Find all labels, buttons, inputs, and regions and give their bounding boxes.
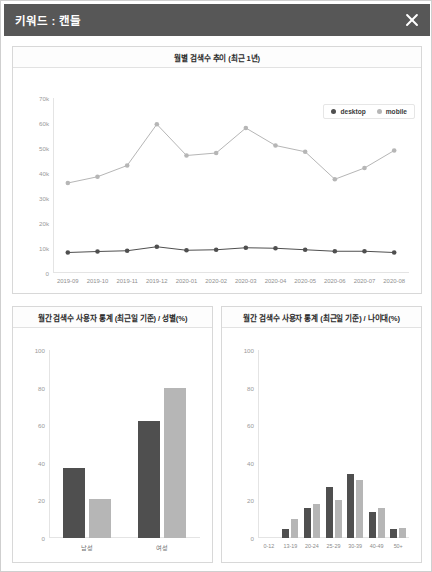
bar-desktop[interactable] <box>282 529 289 538</box>
y-axis-tick: 0 <box>42 535 45 542</box>
dialog-title: 키워드 : 캔들 <box>15 12 81 28</box>
data-point-mobile[interactable] <box>362 166 367 171</box>
age-chart-body: 0204060801000-1213-1920-2425-2930-3940-4… <box>222 328 421 563</box>
data-point-mobile[interactable] <box>95 174 100 179</box>
y-axis-tick: 10k <box>39 245 49 252</box>
data-point-mobile[interactable] <box>155 122 160 127</box>
bar-desktop[interactable] <box>304 508 311 538</box>
bar-desktop[interactable] <box>347 474 354 538</box>
y-axis-tick: 40 <box>247 459 254 466</box>
x-axis-tick: 2019-09 <box>57 278 79 284</box>
gender-chart-body: 020406080100남성여성 <box>13 328 212 563</box>
y-axis-tick: 60k <box>39 120 49 127</box>
x-axis-tick: 2020-04 <box>265 278 287 284</box>
y-axis-tick: 20 <box>38 497 45 504</box>
bar-desktop[interactable] <box>63 468 85 538</box>
data-point-desktop[interactable] <box>333 249 338 254</box>
trend-chart-body: desktop mobile 010k20k30k40k50k60k70k201… <box>13 68 421 294</box>
age-chart-title: 월간 검색수 사용자 통계 (최근일 기준) / 나이대(%) <box>243 312 400 323</box>
bar-desktop[interactable] <box>390 529 397 538</box>
bar-mobile[interactable] <box>399 528 406 538</box>
data-point-desktop[interactable] <box>66 250 71 255</box>
x-axis-tick: 2019-11 <box>117 278 138 284</box>
bar-mobile[interactable] <box>164 388 186 538</box>
line-desktop <box>68 247 394 253</box>
y-axis-tick: 100 <box>35 347 45 354</box>
dialog-titlebar: 키워드 : 캔들 <box>4 4 430 36</box>
bar-desktop[interactable] <box>369 512 376 538</box>
y-axis-tick: 0 <box>46 270 49 277</box>
age-chart-header: 월간 검색수 사용자 통계 (최근일 기준) / 나이대(%) <box>222 307 421 328</box>
data-point-mobile[interactable] <box>303 149 308 154</box>
data-point-desktop[interactable] <box>125 248 130 253</box>
trend-chart-panel: 월별 검색수 추이 (최근 1년) desktop mobile 010k20k… <box>12 46 422 294</box>
data-point-desktop[interactable] <box>214 247 219 252</box>
y-axis-line <box>49 350 50 538</box>
bar-mobile[interactable] <box>378 508 385 538</box>
data-point-desktop[interactable] <box>155 244 160 249</box>
x-axis-category-label: 13-19 <box>283 543 297 549</box>
bar-mobile[interactable] <box>356 480 363 538</box>
x-axis-category-label: 50+ <box>394 543 403 549</box>
y-axis-tick: 30k <box>39 195 49 202</box>
trend-plot-area: 010k20k30k40k50k60k70k2019-092019-102019… <box>53 98 409 273</box>
x-axis-line <box>258 537 409 538</box>
gender-plot-area: 020406080100남성여성 <box>49 350 200 538</box>
y-axis-tick: 70k <box>39 95 49 102</box>
gender-chart-panel: 월간 검색수 사용자 통계 (최근일 기준) / 성별(%) 020406080… <box>12 306 213 563</box>
keyword-stats-dialog: 키워드 : 캔들 월별 검색수 추이 (최근 1년) desktop mobil… <box>0 0 432 572</box>
bar-mobile[interactable] <box>291 519 298 538</box>
x-axis-tick: 2019-12 <box>146 278 168 284</box>
data-point-desktop[interactable] <box>362 249 367 254</box>
data-point-desktop[interactable] <box>392 250 397 255</box>
data-point-mobile[interactable] <box>184 153 189 158</box>
y-axis-tick: 40k <box>39 170 49 177</box>
age-plot-area: 0204060801000-1213-1920-2425-2930-3940-4… <box>258 350 409 538</box>
x-axis-tick: 2020-05 <box>294 278 316 284</box>
x-axis-category-label: 0-12 <box>263 543 274 549</box>
gender-chart-title: 월간 검색수 사용자 통계 (최근일 기준) / 성별(%) <box>38 312 188 323</box>
data-point-desktop[interactable] <box>303 247 308 252</box>
x-axis-tick: 2020-02 <box>205 278 227 284</box>
gender-chart-header: 월간 검색수 사용자 통계 (최근일 기준) / 성별(%) <box>13 307 212 328</box>
x-axis-category-label: 25-29 <box>327 543 341 549</box>
y-axis-tick: 60 <box>247 422 254 429</box>
line-mobile <box>68 124 394 183</box>
y-axis-tick: 100 <box>244 347 254 354</box>
data-point-desktop[interactable] <box>95 249 100 254</box>
bar-desktop[interactable] <box>326 487 333 538</box>
y-axis-tick: 20k <box>39 220 49 227</box>
bar-mobile[interactable] <box>313 504 320 538</box>
y-axis-tick: 0 <box>251 535 254 542</box>
x-axis-tick: 2020-07 <box>354 278 376 284</box>
x-axis-tick: 2020-01 <box>176 278 198 284</box>
y-axis-tick: 80 <box>38 384 45 391</box>
trend-chart-header: 월별 검색수 추이 (최근 1년) <box>13 47 421 68</box>
data-point-mobile[interactable] <box>214 151 219 156</box>
x-axis-category-label: 20-24 <box>305 543 319 549</box>
y-axis-tick: 20 <box>247 497 254 504</box>
trend-chart-title: 월별 검색수 추이 (최근 1년) <box>174 52 260 63</box>
data-point-desktop[interactable] <box>184 248 189 253</box>
age-chart-panel: 월간 검색수 사용자 통계 (최근일 기준) / 나이대(%) 02040608… <box>221 306 422 563</box>
x-axis-category-label: 남성 <box>81 543 93 552</box>
trend-line-series <box>53 98 409 273</box>
y-axis-tick: 80 <box>247 384 254 391</box>
data-point-desktop[interactable] <box>244 245 249 250</box>
data-point-mobile[interactable] <box>273 143 278 148</box>
x-axis-tick: 2020-08 <box>383 278 405 284</box>
data-point-mobile[interactable] <box>333 177 338 182</box>
data-point-mobile[interactable] <box>392 148 397 153</box>
x-axis-category-label: 여성 <box>156 543 168 552</box>
data-point-mobile[interactable] <box>66 181 71 186</box>
y-axis-tick: 40 <box>38 459 45 466</box>
data-point-mobile[interactable] <box>244 126 249 131</box>
x-axis-tick: 2019-10 <box>87 278 109 284</box>
bar-mobile[interactable] <box>335 500 342 538</box>
x-axis-category-label: 30-39 <box>348 543 362 549</box>
data-point-mobile[interactable] <box>125 163 130 168</box>
data-point-desktop[interactable] <box>273 246 278 251</box>
close-icon[interactable] <box>402 10 422 30</box>
bar-desktop[interactable] <box>138 421 160 538</box>
bar-mobile[interactable] <box>89 499 111 538</box>
